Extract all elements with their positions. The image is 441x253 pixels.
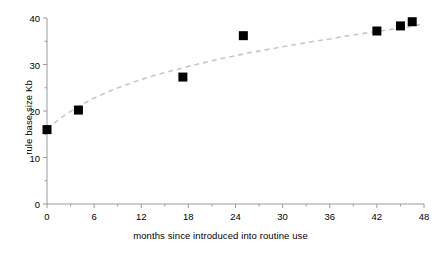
x-tick-label: 42 — [372, 211, 383, 222]
data-point-markers — [43, 17, 417, 134]
y-tick-label: 40 — [10, 13, 40, 24]
data-point-marker — [43, 125, 52, 134]
x-axis-title: months since introduced into routine use — [0, 230, 441, 241]
x-tick-label: 0 — [44, 211, 49, 222]
x-tick-label: 36 — [324, 211, 335, 222]
x-tick-label: 18 — [183, 211, 194, 222]
x-tick-label: 6 — [91, 211, 96, 222]
trend-line — [47, 25, 420, 129]
data-point-marker — [239, 31, 248, 40]
x-tick-label: 12 — [136, 211, 147, 222]
y-axis-title: rule base size Kb — [23, 38, 34, 198]
data-point-marker — [396, 21, 405, 30]
chart-figure: 010203040 0612182430364248 months since … — [0, 0, 441, 253]
data-point-marker — [408, 17, 417, 26]
data-point-marker — [372, 27, 381, 36]
y-tick-label: 0 — [10, 199, 40, 210]
data-point-marker — [178, 73, 187, 82]
x-tick-label: 24 — [230, 211, 241, 222]
x-tick-label: 48 — [419, 211, 430, 222]
x-tick-label: 30 — [277, 211, 288, 222]
x-axis-major-ticks — [47, 204, 424, 208]
data-point-marker — [74, 106, 83, 115]
y-axis-major-ticks — [43, 18, 47, 204]
